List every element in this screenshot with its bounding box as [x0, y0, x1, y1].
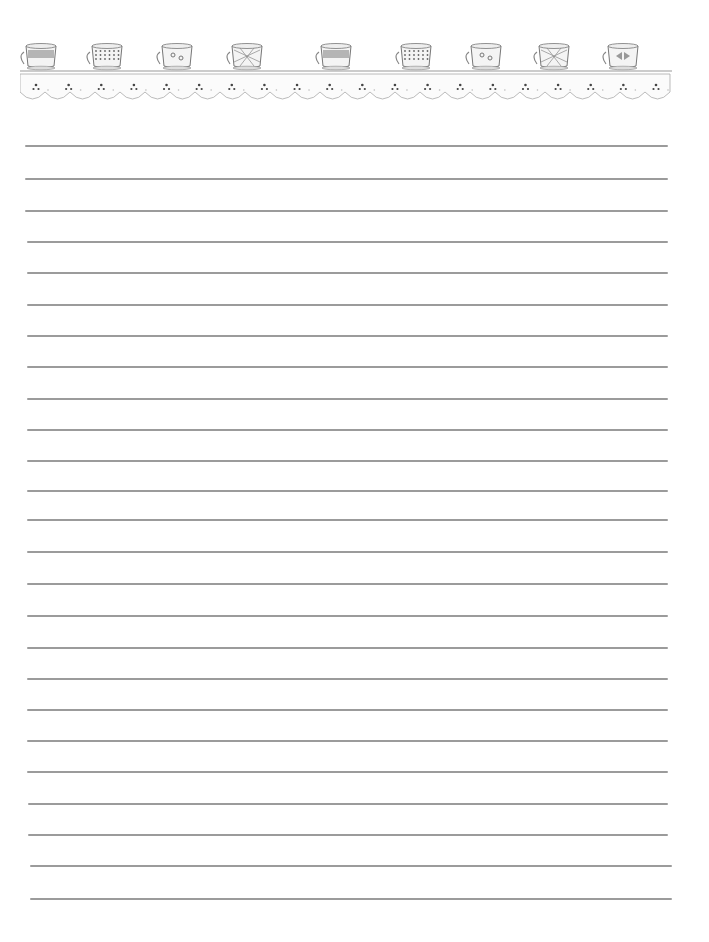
ruled-line: [27, 771, 668, 773]
ruled-line: [27, 615, 668, 617]
ruled-line: [27, 460, 668, 462]
ruled-line: [30, 865, 672, 867]
ruled-line: [27, 647, 668, 649]
ruled-line: [27, 241, 668, 243]
ruled-line: [27, 551, 668, 553]
ruled-line: [27, 335, 668, 337]
ruled-line: [27, 709, 668, 711]
ruled-line: [27, 272, 668, 274]
ruled-line: [27, 398, 668, 400]
writing-lines: [0, 0, 709, 942]
ruled-line: [27, 519, 668, 521]
ruled-line: [25, 210, 668, 212]
ruled-line: [25, 178, 668, 180]
ruled-line: [27, 740, 668, 742]
ruled-line: [27, 366, 668, 368]
ruled-line: [27, 583, 668, 585]
ruled-line: [27, 304, 668, 306]
ruled-line: [25, 145, 668, 147]
ruled-line: [28, 803, 668, 805]
ruled-line: [28, 834, 668, 836]
ruled-line: [30, 898, 672, 900]
ruled-line: [27, 490, 668, 492]
ruled-line: [27, 678, 668, 680]
ruled-line: [27, 429, 668, 431]
